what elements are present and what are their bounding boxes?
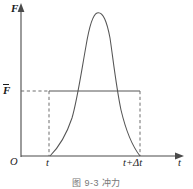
t-start-label: t bbox=[46, 158, 49, 169]
origin-label: O bbox=[10, 157, 18, 168]
x-axis-label: t bbox=[178, 158, 181, 169]
impulse-force-curve bbox=[50, 13, 140, 156]
y-axis-label: F bbox=[11, 3, 18, 14]
average-force-overbar: F bbox=[3, 84, 10, 96]
y-axis-arrow-icon bbox=[18, 3, 25, 12]
figure-container: F F O t t+Δt t 图 9-3 冲力 bbox=[0, 0, 193, 189]
average-force-label: F bbox=[3, 84, 10, 96]
force-time-plot bbox=[0, 0, 193, 189]
t-end-label: t+Δt bbox=[123, 158, 142, 169]
figure-caption: 图 9-3 冲力 bbox=[0, 176, 193, 189]
